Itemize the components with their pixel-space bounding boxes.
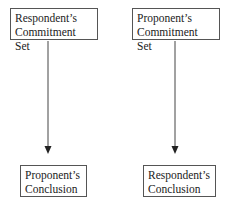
box-text-line2: Conclusion xyxy=(25,182,82,196)
box-text-line1: Respondent’s xyxy=(15,11,93,25)
respondent-commitment-set-box: Respondent’s Commitment Set xyxy=(10,8,98,40)
box-text-line1: Proponent’s xyxy=(25,168,82,182)
box-text-line2: Commitment Set xyxy=(15,25,93,53)
proponent-conclusion-box: Proponent’s Conclusion xyxy=(20,165,87,197)
box-text-line1: Proponent’s xyxy=(137,11,215,25)
box-text-line2: Commitment Set xyxy=(137,25,215,53)
left-arrow xyxy=(45,41,52,154)
box-text-line1: Respondent’s xyxy=(148,168,211,182)
right-arrow xyxy=(172,41,179,154)
respondent-conclusion-box: Respondent’s Conclusion xyxy=(143,165,216,197)
box-text-line2: Conclusion xyxy=(148,182,211,196)
proponent-commitment-set-box: Proponent’s Commitment Set xyxy=(132,8,220,40)
